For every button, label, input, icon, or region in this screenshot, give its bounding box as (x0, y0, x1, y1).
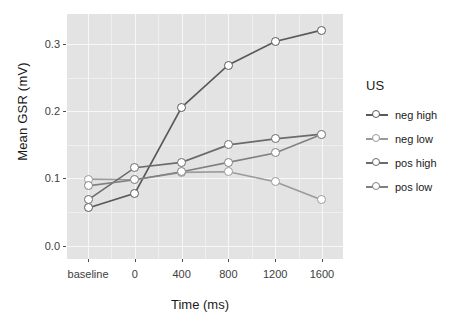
data-point (130, 189, 139, 198)
y-tick-mark (63, 178, 66, 179)
x-axis-title: Time (ms) (60, 297, 340, 312)
plot-panel (67, 14, 343, 259)
x-tick-mark (88, 259, 89, 262)
y-tick-mark (63, 44, 66, 45)
legend-key-point (372, 134, 380, 142)
x-tick-label: 1600 (310, 268, 334, 280)
legend-items: neg highneg lowpos highpos low (366, 103, 461, 199)
x-tick-mark (135, 259, 136, 262)
legend-item: pos low (366, 175, 461, 199)
legend-item: neg low (366, 127, 461, 151)
series-lines-layer (67, 14, 343, 259)
legend-item: pos high (366, 151, 461, 175)
y-tick-label: 0.0 (26, 240, 60, 252)
x-tick-label: 400 (172, 268, 190, 280)
legend-key-icon (366, 154, 388, 172)
x-tick-mark (182, 259, 183, 262)
legend-key-point (372, 110, 380, 118)
x-tick-mark (275, 259, 276, 262)
legend-key-icon (366, 130, 388, 148)
legend-item-label: neg high (395, 109, 437, 121)
data-point (224, 158, 233, 167)
data-point (84, 195, 93, 204)
y-tick-mark (63, 246, 66, 247)
x-tick-label: 0 (132, 268, 138, 280)
series-line (88, 134, 322, 186)
data-point (271, 134, 280, 143)
data-point (224, 61, 233, 70)
y-tick-mark (63, 111, 66, 112)
data-point (177, 103, 186, 112)
y-tick-label: 0.1 (26, 172, 60, 184)
legend-item-label: neg low (395, 133, 433, 145)
x-tick-label: 1200 (263, 268, 287, 280)
data-point (271, 37, 280, 46)
legend-item-label: pos low (395, 181, 432, 193)
legend-key-point (372, 182, 380, 190)
y-tick-label: 0.3 (26, 38, 60, 50)
x-tick-label: 800 (219, 268, 237, 280)
legend-key-icon (366, 178, 388, 196)
legend-item-label: pos high (395, 157, 437, 169)
data-point (271, 177, 280, 186)
legend: US neg highneg lowpos highpos low (366, 78, 461, 199)
legend-item: neg high (366, 103, 461, 127)
legend-key-point (372, 158, 380, 166)
y-tick-label: 0.2 (26, 105, 60, 117)
legend-key-icon (366, 106, 388, 124)
data-point (84, 181, 93, 190)
data-point (177, 158, 186, 167)
x-tick-mark (228, 259, 229, 262)
x-tick-label: baseline (68, 268, 109, 280)
x-tick-mark (322, 259, 323, 262)
legend-title: US (366, 78, 461, 93)
chart-figure: Mean GSR (mV) Time (ms) 0.00.10.20.3 bas… (0, 0, 461, 323)
